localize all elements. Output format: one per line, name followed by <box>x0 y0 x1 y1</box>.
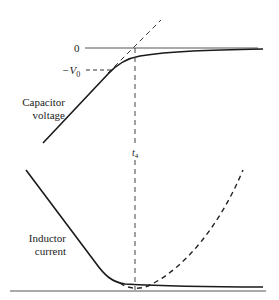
capacitor-voltage-label-line2: voltage <box>33 109 65 121</box>
zero-label: 0 <box>74 42 80 54</box>
inductor-current-label-line2: current <box>35 245 66 257</box>
neg-v0-label-main: −V <box>62 64 77 76</box>
inductor-current-extension-dashed <box>120 170 243 288</box>
capacitor-linear-extension-dashed <box>108 20 161 73</box>
waveform-diagram: 0 −V0 Capacitor voltage t4 Inductor curr… <box>0 0 279 300</box>
neg-v0-label-subscript: 0 <box>76 70 80 79</box>
capacitor-voltage-label-line1: Capacitor <box>22 96 65 108</box>
t4-label-subscript: 4 <box>135 152 139 160</box>
neg-v0-label: −V0 <box>62 64 80 79</box>
inductor-current-curve <box>26 170 263 287</box>
inductor-current-label-line1: Inductor <box>29 232 67 244</box>
